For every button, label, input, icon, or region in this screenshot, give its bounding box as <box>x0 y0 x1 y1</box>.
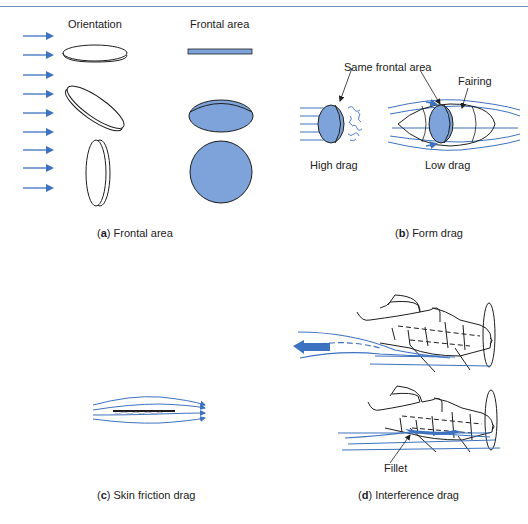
caption-b: (b) Form drag <box>395 227 463 239</box>
plane-upper <box>357 295 495 372</box>
disc-tilted <box>60 79 129 137</box>
caption-d-text: Interference drag <box>375 489 459 501</box>
caption-c-text: Skin friction drag <box>114 489 196 501</box>
callout-line-2 <box>420 70 440 104</box>
caption-d-letter: d <box>362 489 369 501</box>
flow-arrows <box>23 36 52 188</box>
drag-arrow-large <box>293 340 330 354</box>
label-high-drag: High drag <box>310 159 358 171</box>
drag-diagram-graphics <box>0 0 528 524</box>
high-drag-figure <box>300 105 362 143</box>
low-drag-figure <box>388 100 520 151</box>
caption-b-letter: b <box>399 227 406 239</box>
caption-c-letter: c <box>101 489 107 501</box>
frontal-area-circle <box>190 141 252 203</box>
label-low-drag: Low drag <box>425 159 470 171</box>
caption-a-text: Frontal area <box>114 227 173 239</box>
smooth-flow-lower <box>338 432 500 450</box>
disc-flat <box>63 45 127 62</box>
caption-c: (c) Skin friction drag <box>97 489 195 501</box>
header-frontal-area: Frontal area <box>190 18 249 30</box>
skin-friction-figure <box>93 397 205 424</box>
label-fillet: Fillet <box>384 462 407 474</box>
label-fairing: Fairing <box>458 75 492 87</box>
frontal-area-ellipse <box>189 100 253 132</box>
label-same-frontal-area: Same frontal area <box>344 61 431 73</box>
header-orientation: Orientation <box>68 18 122 30</box>
caption-a: (a) Frontal area <box>97 227 173 239</box>
caption-b-text: Form drag <box>412 227 463 239</box>
frontal-area-thin <box>188 49 252 54</box>
caption-d: (d) Interference drag <box>358 489 459 501</box>
caption-a-letter: a <box>101 227 107 239</box>
disc-vertical <box>86 140 110 206</box>
